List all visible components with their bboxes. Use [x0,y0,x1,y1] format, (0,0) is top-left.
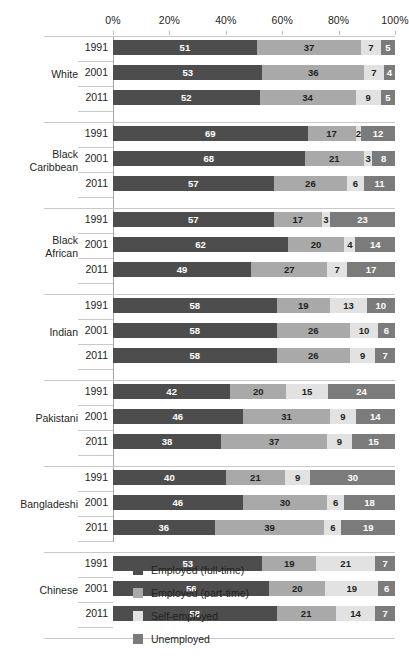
bar-segment[interactable]: 34 [260,90,356,105]
bar-segment-value: 58 [189,326,200,336]
legend-item[interactable]: Employed (full-time) [0,558,409,581]
bar-row[interactable]: 20015826106 [0,319,409,344]
bar-segment[interactable]: 20 [288,237,344,252]
legend-item[interactable]: Self-employed [0,604,409,627]
bar-segment[interactable]: 26 [274,176,347,191]
bar-row[interactable]: 199142201524 [0,380,409,405]
bar-segment[interactable]: 36 [262,65,364,80]
bar-segment[interactable]: 58 [113,323,277,338]
bar-segment[interactable]: 7 [327,262,347,277]
bar-segment[interactable]: 14 [355,237,394,252]
bar-row[interactable]: 19915717323 [0,208,409,233]
bar-segment[interactable]: 17 [274,212,322,227]
bar-segment[interactable]: 30 [310,470,395,485]
bar-row[interactable]: 2001682138 [0,147,409,172]
bar-segment[interactable]: 10 [367,298,395,313]
bar-segment[interactable]: 3 [322,212,330,227]
bar-segment[interactable]: 57 [113,176,274,191]
bar-segment[interactable]: 20 [230,384,286,399]
legend-item[interactable]: Unemployed [0,627,409,650]
bar-row[interactable]: 2011523495 [0,86,409,111]
bar-segment[interactable]: 21 [305,151,364,166]
bar-segment[interactable]: 30 [243,495,328,510]
bar-row[interactable]: 20113837915 [0,430,409,455]
bar-segment[interactable]: 7 [364,65,384,80]
bar-segment[interactable]: 39 [215,520,325,535]
bar-segment[interactable]: 53 [113,65,262,80]
bar-segment[interactable]: 17 [308,126,356,141]
bar-row[interactable]: 20114927717 [0,258,409,283]
bar-segment[interactable]: 7 [375,348,395,363]
bar-segment[interactable]: 9 [327,434,353,449]
bar-segment[interactable]: 6 [324,520,341,535]
bar-segment[interactable]: 3 [364,151,372,166]
bar-segment[interactable]: 46 [113,495,243,510]
bar-segment[interactable]: 15 [352,434,395,449]
bar-segment[interactable]: 9 [356,90,381,105]
bar-segment[interactable]: 9 [350,348,375,363]
bar-segment[interactable]: 19 [341,520,395,535]
bar-row[interactable]: 20014630618 [0,491,409,516]
bar-segment[interactable]: 6 [347,176,364,191]
bar-segment[interactable]: 9 [330,409,355,424]
bar-segment-value: 19 [298,301,309,311]
bar-segment[interactable]: 69 [113,126,308,141]
bar-segment[interactable]: 37 [257,40,361,55]
bar-row[interactable]: 19916917212 [0,122,409,147]
bar-row[interactable]: 19914021930 [0,466,409,491]
bar-segment[interactable]: 42 [113,384,230,399]
bar-segment[interactable]: 17 [347,262,395,277]
bar-segment[interactable]: 6 [327,495,344,510]
bar-segment[interactable]: 9 [285,470,310,485]
bar-segment[interactable]: 4 [384,65,395,80]
bar-segment[interactable]: 58 [113,348,277,363]
bar-segment[interactable]: 58 [113,298,277,313]
bar-segment[interactable]: 14 [356,409,395,424]
bar-segment[interactable]: 62 [113,237,288,252]
bar-row[interactable]: 20115726611 [0,172,409,197]
bar-row[interactable]: 20014631914 [0,405,409,430]
bar-segment[interactable]: 4 [344,237,355,252]
bar-segment-value: 24 [356,387,367,397]
bar-segment[interactable]: 27 [251,262,327,277]
bar-segment[interactable]: 6 [378,323,395,338]
bar-segment[interactable]: 68 [113,151,305,166]
bar-segment[interactable]: 52 [113,90,260,105]
bar-segment[interactable]: 40 [113,470,226,485]
bar-segment[interactable]: 5 [381,40,395,55]
bar-segment[interactable]: 11 [364,176,395,191]
bar-segment[interactable]: 15 [286,384,328,399]
bar-segment[interactable]: 51 [113,40,257,55]
bar-segment[interactable]: 31 [243,409,330,424]
bar-segment[interactable]: 37 [221,434,326,449]
year-label: 2011 [58,263,108,275]
bar-segment[interactable]: 23 [330,212,395,227]
bar-row[interactable]: 1991513775 [0,36,409,61]
bar-segment[interactable]: 36 [113,520,215,535]
bar-row[interactable]: 20016220414 [0,233,409,258]
bar-segment[interactable]: 5 [381,90,395,105]
bar-segment[interactable]: 21 [226,470,285,485]
legend-item[interactable]: Employed (part-time) [0,581,409,604]
bar-segment[interactable]: 24 [328,384,395,399]
bar-segment[interactable]: 26 [277,323,350,338]
bar-segment[interactable]: 12 [361,126,395,141]
bar-row[interactable]: 199158191310 [0,294,409,319]
bar-track: 533674 [113,65,395,80]
bar-segment[interactable]: 49 [113,262,251,277]
bar-segment[interactable]: 19 [277,298,331,313]
bar-segment[interactable]: 8 [372,151,395,166]
bar-segment[interactable]: 57 [113,212,274,227]
bar-row[interactable]: 20113639619 [0,516,409,541]
bar-segment[interactable]: 38 [113,434,221,449]
bar-segment-value: 5 [385,93,390,103]
bar-segment[interactable]: 10 [350,323,378,338]
bar-segment[interactable]: 26 [277,348,350,363]
bar-row[interactable]: 2011582697 [0,344,409,369]
bar-segment[interactable]: 18 [344,495,395,510]
bar-row[interactable]: 2001533674 [0,61,409,86]
bar-segment[interactable]: 13 [330,298,367,313]
bar-segment[interactable]: 46 [113,409,243,424]
x-axis-tick-mark [113,31,114,35]
bar-segment[interactable]: 7 [361,40,381,55]
